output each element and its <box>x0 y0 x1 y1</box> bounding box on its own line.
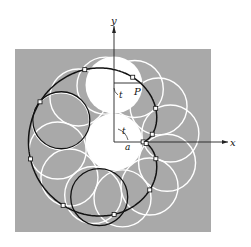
x-axis-label: x <box>230 137 236 148</box>
point-p-label: P <box>133 86 141 97</box>
curve-point-marker <box>131 75 135 79</box>
cardioid-diagram: x y P t t a <box>0 0 251 247</box>
curve-point-marker <box>28 157 32 161</box>
x-axis-arrow-icon <box>222 140 228 144</box>
curve-point-marker <box>154 157 158 161</box>
curve-point-marker <box>154 106 158 110</box>
curve-point-marker <box>150 132 154 136</box>
curve-point-marker <box>144 141 148 145</box>
curve-point-marker <box>38 100 42 104</box>
radius-a-label: a <box>125 142 130 152</box>
curve-point-marker <box>61 203 65 207</box>
curve-point-marker <box>112 212 116 216</box>
curve-point-marker <box>148 188 152 192</box>
y-axis-label: y <box>110 15 117 26</box>
angle-t-top-label: t <box>119 90 123 100</box>
curve-point-marker <box>83 68 87 72</box>
y-axis-arrow-icon <box>112 26 116 33</box>
